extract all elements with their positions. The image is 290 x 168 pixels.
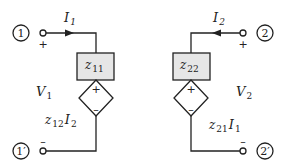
circuit-diagram: 1 + I1 z11 + – – 1′ V1 z12I2 2 + I2 z22 …: [0, 0, 290, 168]
plus-sign-port-1: +: [38, 38, 47, 51]
source-label-z12-i2: z12I2: [44, 112, 77, 129]
node-2: 2: [257, 25, 273, 41]
minus-sign-port-1: –: [40, 135, 46, 148]
terminal-1: [40, 30, 46, 36]
terminal-2-prime: [240, 148, 246, 154]
svg-text:1′: 1′: [16, 145, 26, 158]
current-label-i1: I1: [63, 10, 76, 27]
node-2-prime: 2′: [257, 143, 273, 159]
wire-top-left: [46, 33, 96, 53]
minus-sign-port-2: –: [240, 135, 246, 148]
source-label-z21-i1: z21I1: [208, 117, 241, 134]
source-minus-right: –: [188, 103, 194, 116]
current-label-i2: I2: [212, 10, 225, 27]
current-arrow-right-icon: [65, 30, 74, 37]
terminal-1-prime: [40, 148, 46, 154]
current-arrow-left-icon: [212, 30, 221, 37]
node-1-prime: 1′: [13, 143, 29, 159]
source-plus-right: +: [186, 83, 195, 96]
voltage-label-v2: V2: [236, 84, 252, 101]
source-minus-left: –: [93, 103, 99, 116]
wire-top-right: [191, 33, 240, 53]
svg-text:1: 1: [18, 27, 25, 40]
plus-sign-port-2: +: [238, 38, 247, 51]
terminal-2: [240, 30, 246, 36]
svg-text:2: 2: [262, 27, 269, 40]
source-plus-left: +: [91, 83, 100, 96]
svg-text:2′: 2′: [260, 145, 270, 158]
node-1: 1: [13, 25, 29, 41]
voltage-label-v1: V1: [36, 84, 52, 101]
